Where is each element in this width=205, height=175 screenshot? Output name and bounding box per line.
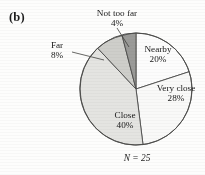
slice-label-close: Close 40% <box>104 110 146 131</box>
slice-label-far-pct: 8% <box>40 50 74 60</box>
slice-label-close-text: Close <box>115 110 136 120</box>
slice-label-nearby-text: Nearby <box>144 44 171 54</box>
slice-label-far: Far 8% <box>40 40 74 61</box>
slice-label-far-text: Far <box>51 40 63 50</box>
slice-label-very-close-pct: 28% <box>148 93 204 103</box>
pie-chart-figure: (b) Not too far 4% Far <box>0 0 205 175</box>
slice-label-very-close-text: Very close <box>157 83 196 93</box>
slice-label-very-close: Very close 28% <box>148 83 204 104</box>
slice-label-close-pct: 40% <box>104 120 146 130</box>
slice-label-not-too-far: Not too far 4% <box>84 8 150 29</box>
slice-label-nearby: Nearby 20% <box>137 44 179 65</box>
slice-label-not-too-far-pct: 4% <box>84 18 150 28</box>
slice-label-nearby-pct: 20% <box>137 54 179 64</box>
sample-size-caption: N = 25 <box>104 153 170 163</box>
slice-label-not-too-far-text: Not too far <box>97 8 137 18</box>
